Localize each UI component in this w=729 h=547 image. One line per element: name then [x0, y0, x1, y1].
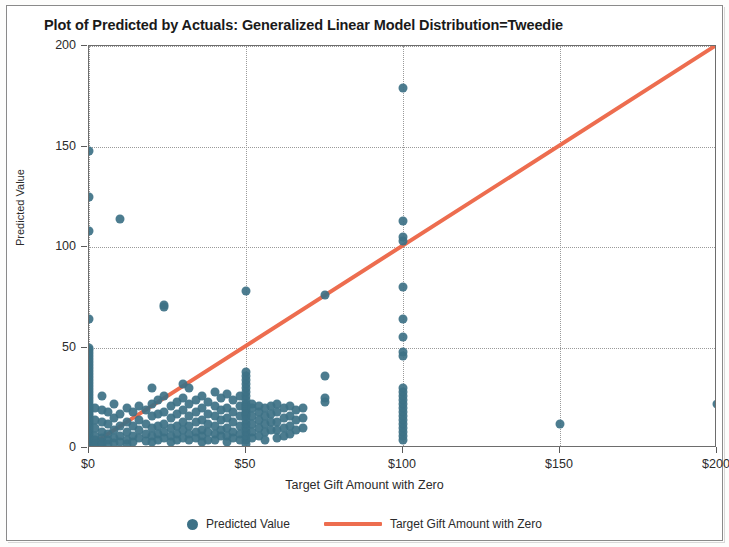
y-tick-mark — [81, 246, 87, 247]
chart-legend: Predicted ValueTarget Gift Amount with Z… — [0, 517, 729, 531]
x-tick-label: $200 — [702, 457, 729, 471]
data-point — [399, 333, 408, 342]
data-point — [320, 371, 329, 380]
data-point — [399, 216, 408, 225]
data-point — [116, 214, 125, 223]
x-tick-mark — [245, 447, 246, 453]
data-point — [399, 315, 408, 324]
data-point — [320, 397, 329, 406]
legend-circle-icon — [187, 519, 198, 530]
legend-entry-0[interactable]: Predicted Value — [187, 517, 290, 531]
screenshot-root: Plot of Predicted by Actuals: Generalize… — [0, 0, 729, 547]
data-point — [160, 303, 169, 312]
data-point — [298, 423, 307, 432]
x-axis-title: Target Gift Amount with Zero — [0, 478, 729, 492]
y-tick-label: 100 — [30, 239, 76, 253]
x-tick-mark — [402, 447, 403, 453]
data-point — [298, 403, 307, 412]
x-tick-label: $100 — [388, 457, 416, 471]
data-point — [110, 399, 119, 408]
data-point — [713, 399, 716, 408]
data-point — [320, 291, 329, 300]
plot-inner — [89, 46, 715, 446]
data-point — [298, 413, 307, 422]
x-tick-mark — [559, 447, 560, 453]
y-tick-mark — [81, 447, 87, 448]
data-point — [97, 391, 106, 400]
y-tick-mark — [81, 347, 87, 348]
data-point — [399, 84, 408, 93]
y-tick-mark — [81, 45, 87, 46]
legend-label: Predicted Value — [206, 517, 290, 531]
x-tick-mark — [716, 447, 717, 453]
y-tick-mark — [81, 146, 87, 147]
data-point — [556, 419, 565, 428]
data-point — [399, 435, 408, 444]
data-point — [399, 283, 408, 292]
x-tick-label: $150 — [545, 457, 573, 471]
data-point — [185, 383, 194, 392]
x-tick-label: $50 — [235, 457, 256, 471]
data-point — [399, 351, 408, 360]
y-tick-label: 50 — [30, 340, 76, 354]
legend-entry-1[interactable]: Target Gift Amount with Zero — [324, 517, 542, 531]
legend-label: Target Gift Amount with Zero — [390, 517, 542, 531]
data-point — [160, 391, 169, 400]
x-tick-label: $0 — [81, 457, 95, 471]
data-point — [399, 236, 408, 245]
x-tick-mark — [88, 447, 89, 453]
y-tick-label: 200 — [30, 38, 76, 52]
data-point — [260, 435, 269, 444]
y-tick-label: 150 — [30, 139, 76, 153]
legend-line-icon — [324, 522, 382, 526]
y-tick-label: 0 — [30, 440, 76, 454]
data-point — [147, 383, 156, 392]
plot-area — [88, 45, 716, 447]
y-axis-title: Predicted Value — [14, 169, 26, 246]
chart-title: Plot of Predicted by Actuals: Generalize… — [44, 17, 563, 33]
data-point — [242, 287, 251, 296]
